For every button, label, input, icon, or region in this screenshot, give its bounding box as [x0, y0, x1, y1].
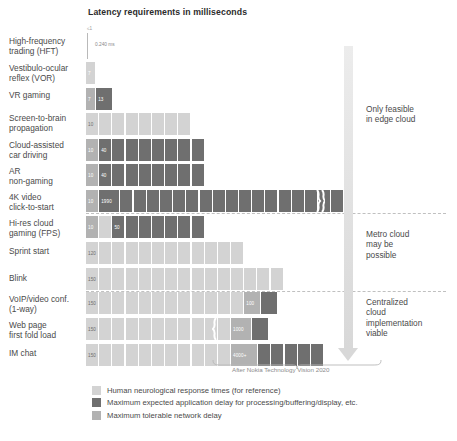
zone-divider-edge-metro: [86, 213, 446, 214]
row-label-line: Hi-res cloud: [9, 218, 85, 228]
bar-segment-human: [152, 242, 164, 264]
row-label-line: car driving: [9, 150, 85, 160]
bar-segment-app: [192, 164, 204, 186]
segment-value: 40: [101, 173, 106, 178]
bar-segment-human: [112, 242, 124, 264]
bar-segment-app: [331, 190, 343, 212]
bar-segment-human: [112, 113, 124, 135]
bar-vor: 7: [86, 62, 95, 84]
row-label-hft: High-frequency trading (HFT): [9, 36, 85, 56]
bar-segment-human: [178, 318, 190, 340]
segment-value: 40: [101, 148, 106, 153]
row-label-vor: Vestibulo-ocular reflex (VOR): [9, 63, 85, 83]
bar-segment-app: [200, 190, 212, 212]
bar-segment-human: [152, 292, 164, 314]
bar-segment-human: [126, 318, 138, 340]
bar-segment-human: [99, 318, 111, 340]
bar-segment-app: [152, 164, 164, 186]
bar-segment-human: [165, 344, 177, 366]
bar-segment-human: [205, 242, 217, 264]
bar-segment-human: 150: [86, 344, 98, 366]
bar-segment-human: [152, 318, 164, 340]
row-label-line: IM chat: [9, 348, 85, 358]
segment-value: 10: [88, 225, 93, 230]
bar-segment-human: [99, 344, 111, 366]
segment-value: 150: [88, 353, 96, 358]
legend-item-app: Maximum expected application delay for p…: [92, 398, 358, 407]
row-label-voip: VoIP/video conf. (1-way): [9, 294, 85, 314]
axis-break-4k-video: [316, 190, 325, 212]
row-label-web-page: Web page first fold load: [9, 320, 85, 340]
row-label-line: AR: [9, 166, 85, 176]
row-label-vr-gaming: VR gaming: [9, 90, 85, 100]
legend-swatch-icon: [92, 411, 101, 420]
row-label-line: VR gaming: [9, 90, 85, 100]
bar-voip: 150 100: [86, 292, 277, 314]
bar-segment-human: [165, 268, 177, 290]
bar-segment-app: 1990: [99, 190, 119, 212]
bar-segment-human: [139, 318, 151, 340]
bar-segment-human: 150: [86, 318, 98, 340]
bar-segment-app: [160, 190, 172, 212]
segment-value: 10: [88, 122, 93, 127]
bar-segment-app: [139, 216, 151, 238]
bar-segment-human: [192, 242, 204, 264]
bar-segment-human: [231, 268, 243, 290]
bar-segment-human: [139, 344, 151, 366]
bar-segment-human: [218, 242, 230, 264]
row-label-line: Web page: [9, 320, 85, 330]
axis-break-web-page: [277, 318, 286, 340]
bar-segment-app: [178, 216, 190, 238]
bar-segment-human: [112, 318, 124, 340]
bar-segment-app: [139, 164, 151, 186]
bar-hires-cloud-gaming: 10 50: [86, 216, 204, 238]
row-label-hires-cloud-gaming: Hi-res cloud gaming (FPS): [9, 218, 85, 238]
bar-segment-human: [99, 292, 111, 314]
bar-segment-app: [239, 190, 251, 212]
bar-segment-human: 7: [86, 62, 95, 84]
bar-segment-app: [292, 190, 304, 212]
annotation-line: possible: [366, 250, 409, 260]
bar-segment-app: [192, 216, 204, 238]
bar-segment-human: [205, 268, 217, 290]
annotation-line: Only feasible: [366, 104, 415, 114]
axis-break-web-page-left: [212, 318, 221, 340]
bar-segment-human: [126, 268, 138, 290]
bar-segment-human: [152, 268, 164, 290]
bar-segment-human: [165, 292, 177, 314]
legend-item-human: Human neurological response times (for r…: [92, 386, 358, 395]
bar-segment-app: [126, 216, 138, 238]
annotation-line: cloud: [366, 307, 422, 317]
axis-break-voip: [283, 292, 292, 314]
bar-segment-human: [192, 292, 204, 314]
bar-segment-human: [112, 344, 124, 366]
row-label-car-driving: Cloud-assisted car driving: [9, 140, 85, 160]
segment-value: 10: [88, 199, 93, 204]
bar-segment-human: 150: [86, 268, 98, 290]
row-label-blink: Blink: [9, 273, 85, 283]
bar-segment-app: [186, 190, 198, 212]
row-label-line: Sprint start: [9, 246, 85, 256]
bar-segment-app: [152, 216, 164, 238]
bar-segment-human: [139, 292, 151, 314]
bar-car-driving: 10 40: [86, 139, 204, 161]
bar-segment-app: [147, 190, 159, 212]
bar-segment-app: [165, 139, 177, 161]
bar-segment-net: 10: [86, 190, 98, 212]
annotation-line: Metro cloud: [366, 229, 409, 239]
row-label-screen-to-brain: Screen-to-brain propagation: [9, 113, 85, 133]
bar-ar-non-gaming: 10 40: [86, 164, 204, 186]
bar-screen-to-brain: 10: [86, 113, 190, 135]
row-label-line: 4K video: [9, 192, 85, 202]
bar-segment-app: [126, 164, 138, 186]
bar-segment-app: [134, 190, 146, 212]
segment-value: 150: [88, 277, 96, 282]
segment-value: 150: [88, 301, 96, 306]
row-label-line: first fold load: [9, 330, 85, 340]
segment-value: 7: [88, 97, 91, 102]
bar-segment-human: [244, 268, 256, 290]
bar-segment-app: [279, 190, 291, 212]
annotation-edge-cloud: Only feasible in edge cloud: [366, 104, 415, 125]
bar-segment-net: 1000: [231, 318, 251, 340]
bar-segment-net: 100: [244, 292, 260, 314]
